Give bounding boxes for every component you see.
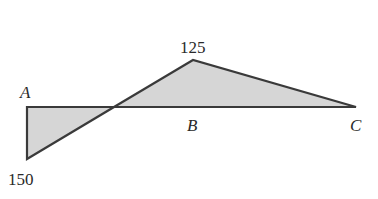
bending-moment-diagram: A 150 125 B C: [0, 0, 378, 199]
value-125: 125: [180, 38, 206, 57]
label-c: C: [350, 116, 362, 135]
value-150: 150: [8, 170, 34, 189]
label-a: A: [19, 83, 31, 102]
positive-region: [114, 60, 356, 107]
label-b: B: [187, 116, 198, 135]
negative-region: [27, 107, 114, 159]
